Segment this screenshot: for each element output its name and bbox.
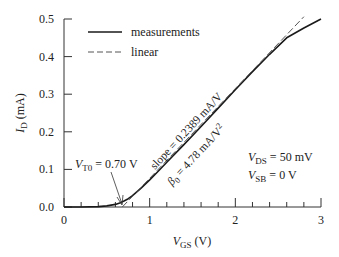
threshold-arrow (111, 172, 122, 204)
y-tick-label: 0.4 (39, 50, 54, 64)
x-tick-label: 0 (61, 213, 67, 227)
vsb-condition: VSB = 0 V (248, 168, 297, 184)
x-tick-label: 3 (318, 213, 324, 227)
legend-label-linear: linear (131, 45, 158, 59)
x-tick-label: 2 (232, 213, 238, 227)
conditions: VDS = 50 mV VSB = 0 V (248, 150, 313, 184)
x-axis-label: VGS (V) (173, 234, 212, 250)
legend-label-measurements: measurements (131, 25, 200, 39)
y-tick-label: 0.1 (39, 162, 54, 176)
y-tick-label: 0.5 (39, 12, 54, 26)
y-axis-label: ID (mA) (13, 93, 29, 134)
y-tick-label: 0.3 (39, 87, 54, 101)
legend: measurements linear (88, 25, 200, 59)
y-tick-label: 0.0 (39, 200, 54, 214)
y-tick-label: 0.2 (39, 125, 54, 139)
vds-condition: VDS = 50 mV (248, 150, 313, 166)
threshold-label: VT0 = 0.70 V (75, 157, 138, 173)
chart: 0.00.10.20.30.40.50123 measurements line… (0, 0, 339, 257)
x-tick-label: 1 (147, 213, 153, 227)
ticks: 0.00.10.20.30.40.50123 (39, 12, 324, 227)
